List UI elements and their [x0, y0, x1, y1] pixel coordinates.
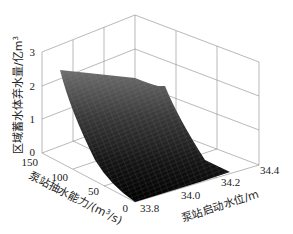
- x-tick: 33.8: [140, 202, 160, 214]
- y-tick: 150: [22, 156, 39, 168]
- x-tick: 34.2: [221, 176, 240, 188]
- surface-plot: 3 2 1 0 150 100 50 0 33.8 34.0 34.2 34.4…: [0, 0, 293, 234]
- z-tick: 1: [30, 113, 36, 125]
- z-tick: 2: [30, 80, 36, 92]
- z-axis-ticks: 3 2 1 0: [30, 46, 36, 158]
- y-tick: 0: [123, 202, 129, 214]
- z-axis-label: 区域蓄水体弃水量/亿m3: [11, 36, 25, 154]
- x-tick: 34.4: [260, 164, 280, 176]
- x-tick: 34.0: [181, 189, 201, 201]
- z-tick: 3: [30, 46, 36, 58]
- y-tick: 50: [88, 185, 100, 197]
- surface: [60, 70, 230, 202]
